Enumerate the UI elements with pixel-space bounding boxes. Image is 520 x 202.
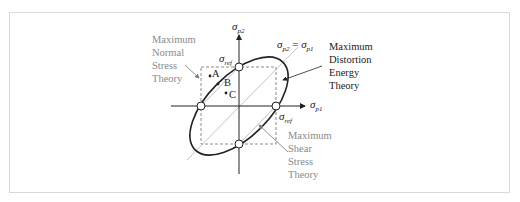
shear-edge-lower [239,106,276,144]
shear-stress-theory-label: Maximum Shear Stress Theory [288,129,332,181]
intercept-bottom [235,140,243,148]
y-axis-label: σp2 [232,20,244,35]
point-b-dot [217,83,220,86]
distortion-energy-theory-label: Maximum Distortion Energy Theory [329,40,373,92]
shear-pointer [259,125,288,152]
point-a-label: A [212,68,220,79]
sigma-ref-right: σref [279,110,292,125]
intercept-left [197,102,205,110]
failure-diagram [0,0,520,202]
shear-edge-upper [201,67,239,106]
point-a-dot [209,75,212,78]
intercept-top [235,63,243,71]
point-c-dot [225,92,228,95]
normal-stress-theory-label: Maximum Normal Stress Theory [152,33,196,85]
point-b-label: B [224,77,231,88]
diagonal-equation: σp2 = σp1 [277,38,314,53]
distortion-pointer [283,66,322,80]
x-axis-label: σp1 [310,98,322,113]
intercept-right [272,102,280,110]
sigma-ref-top: σref [219,52,232,67]
point-c-label: C [229,89,236,100]
